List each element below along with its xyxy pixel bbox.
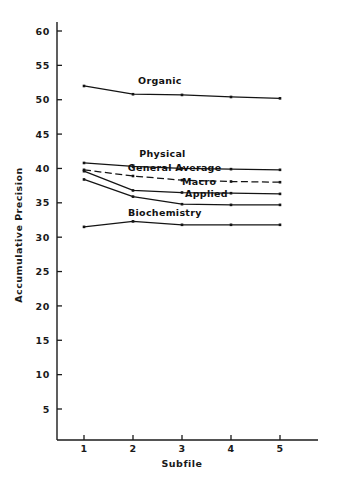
x-axis-tick-label: 3: [178, 443, 185, 454]
data-point-marker: [83, 178, 86, 181]
data-point-marker: [279, 181, 282, 184]
series-line-organic: [84, 86, 280, 98]
y-axis-tick-label: 25: [36, 266, 50, 277]
accumulative-precision-line-chart: 5101520253035404550556012345 OrganicPhys…: [0, 0, 337, 486]
data-point-marker: [279, 224, 282, 227]
data-point-marker: [230, 96, 233, 99]
y-axis-tick-label: 55: [36, 60, 50, 71]
data-point-marker: [279, 97, 282, 100]
y-axis-tick-label: 20: [36, 301, 50, 312]
series-label-biochemistry: Biochemistry: [128, 207, 202, 218]
y-axis-tick-label: 40: [36, 163, 50, 174]
data-point-marker: [230, 224, 233, 227]
series-label-macro: Macro: [182, 176, 216, 187]
data-point-marker: [132, 175, 135, 178]
series-label-general-average: General Average: [128, 162, 222, 173]
data-point-marker: [230, 192, 233, 195]
data-point-marker: [181, 191, 184, 194]
y-axis-title: Accumulative Precision: [13, 167, 24, 303]
data-point-marker: [279, 193, 282, 196]
x-axis-tick-label: 2: [129, 443, 136, 454]
data-point-marker: [132, 220, 135, 223]
axes: 5101520253035404550556012345: [36, 22, 318, 454]
y-axis-tick-label: 30: [36, 232, 50, 243]
data-point-marker: [132, 189, 135, 192]
data-point-marker: [132, 93, 135, 96]
data-point-marker: [83, 85, 86, 88]
data-point-marker: [181, 224, 184, 227]
data-point-marker: [83, 162, 86, 165]
y-axis-tick-label: 15: [36, 335, 50, 346]
series-label-applied: Applied: [185, 188, 228, 199]
series-label-organic: Organic: [138, 75, 182, 86]
x-axis-title: Subfile: [162, 458, 203, 469]
data-point-marker: [230, 180, 233, 183]
data-point-marker: [230, 204, 233, 207]
y-axis-tick-label: 10: [36, 369, 50, 380]
data-point-marker: [230, 168, 233, 171]
y-axis-tick-label: 50: [36, 94, 50, 105]
y-axis-tick-label: 45: [36, 129, 50, 140]
x-axis-tick-label: 1: [80, 443, 87, 454]
y-axis-tick-label: 60: [36, 26, 50, 37]
data-point-marker: [279, 169, 282, 172]
y-axis-tick-label: 5: [43, 404, 50, 415]
y-axis-tick-label: 35: [36, 197, 50, 208]
data-point-marker: [279, 204, 282, 207]
data-point-marker: [181, 203, 184, 206]
x-axis-tick-label: 5: [276, 443, 283, 454]
chart-figure: 5101520253035404550556012345 OrganicPhys…: [0, 0, 337, 486]
data-point-marker: [132, 195, 135, 198]
data-point-marker: [181, 94, 184, 97]
data-point-marker: [83, 170, 86, 173]
series-label-physical: Physical: [139, 148, 186, 159]
x-axis-tick-label: 4: [227, 443, 234, 454]
data-point-marker: [83, 226, 86, 229]
